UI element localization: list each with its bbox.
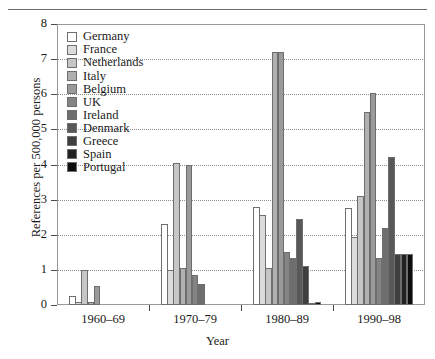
legend-item: France xyxy=(67,43,143,56)
legend-item-label: Belgium xyxy=(83,83,126,96)
figure-top-rule xyxy=(8,9,427,10)
x-axis-tick xyxy=(333,305,334,311)
legend-swatch-icon xyxy=(67,45,77,55)
legend-item: Italy xyxy=(67,69,143,82)
legend-swatch-icon xyxy=(67,97,77,107)
bar xyxy=(81,270,88,305)
legend-item: Germany xyxy=(67,30,143,43)
y-axis-title: References per 500,000 persons xyxy=(29,18,44,298)
legend-item: Ireland xyxy=(67,109,143,122)
legend-item: Portugal xyxy=(67,161,143,174)
legend-item-label: Portugal xyxy=(83,161,125,174)
legend-swatch-icon xyxy=(67,162,77,172)
legend-item-label: Netherlands xyxy=(83,56,143,69)
legend-item: Spain xyxy=(67,148,143,161)
legend-item-label: UK xyxy=(83,96,101,109)
legend-swatch-icon xyxy=(67,136,77,146)
y-axis-tick xyxy=(51,305,57,306)
legend-swatch-icon xyxy=(67,84,77,94)
legend-item-label: Greece xyxy=(83,135,118,148)
legend-swatch-icon xyxy=(67,58,77,68)
legend-item: Belgium xyxy=(67,82,143,95)
legend-item-label: France xyxy=(83,43,117,56)
legend-item-label: Ireland xyxy=(83,109,118,122)
legend-item-label: Spain xyxy=(83,148,111,161)
legend-item-label: Denmark xyxy=(83,122,130,135)
bar xyxy=(315,302,322,306)
legend-item: Denmark xyxy=(67,122,143,135)
legend-item: Netherlands xyxy=(67,56,143,69)
legend-swatch-icon xyxy=(67,110,77,120)
chart-figure: 012345678 References per 500,000 persons… xyxy=(0,0,435,359)
legend: GermanyFranceNetherlandsItalyBelgiumUKIr… xyxy=(67,30,143,174)
x-axis-tick xyxy=(149,305,150,311)
bar xyxy=(407,254,414,305)
bar xyxy=(198,284,205,305)
y-axis-tick-label: 0 xyxy=(7,298,47,311)
legend-item-label: Germany xyxy=(83,30,130,43)
legend-swatch-icon xyxy=(67,123,77,133)
bar xyxy=(94,286,101,305)
legend-swatch-icon xyxy=(67,32,77,42)
legend-item: Greece xyxy=(67,135,143,148)
bar xyxy=(302,266,309,305)
x-axis-tick-label: 1990–98 xyxy=(324,312,434,327)
legend-swatch-icon xyxy=(67,149,77,159)
legend-item: UK xyxy=(67,95,143,108)
legend-item-label: Italy xyxy=(83,70,106,83)
legend-swatch-icon xyxy=(67,71,77,81)
x-axis-tick xyxy=(241,305,242,311)
x-axis-title: Year xyxy=(0,334,435,349)
